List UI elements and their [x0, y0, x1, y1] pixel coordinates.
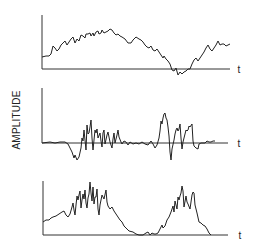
panel-3-trace — [43, 182, 211, 235]
panel-3-axes — [43, 181, 228, 235]
panel-2-axes — [42, 88, 228, 143]
plot-canvas — [0, 0, 255, 251]
panel-3 — [43, 181, 228, 235]
panel-2 — [42, 88, 228, 160]
panel-1-trace — [42, 29, 230, 75]
panel-2-trace — [42, 113, 215, 160]
panel-3-t-label: t — [239, 230, 242, 241]
panel-1-t-label: t — [238, 64, 241, 75]
y-axis-label: AMPLITUDE — [11, 90, 22, 149]
panel-2-t-label: t — [238, 138, 241, 149]
panel-1-axes — [42, 15, 230, 69]
panel-1 — [42, 15, 230, 75]
figure: AMPLITUDE t t t — [0, 0, 255, 251]
